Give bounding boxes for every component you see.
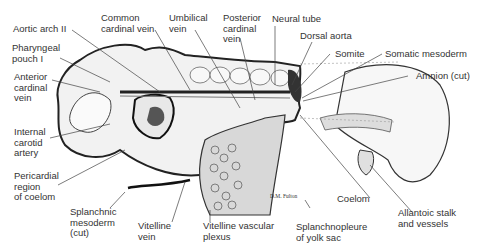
label-allantoic-stalk: Allantoic stalk and vessels: [398, 208, 456, 229]
label-pericardial-region: Pericardial region of coelom: [14, 171, 59, 203]
label-common-cardinal-vein: Common cardinal vein: [101, 13, 154, 34]
label-coelom: Coelom: [337, 194, 370, 205]
splanchnic-mesoderm-cut: [128, 180, 190, 188]
label-internal-carotid-artery: Internal carotid artery: [14, 127, 46, 159]
label-splanchnic-mesoderm: Splanchnic mesoderm (cut): [70, 207, 116, 239]
allantoic-stalk-shape: [358, 150, 374, 175]
label-somatic-mesoderm: Somatic mesoderm: [385, 49, 467, 60]
label-vitelline-vein: Vitelline vein: [138, 221, 171, 242]
label-neural-tube: Neural tube: [272, 14, 321, 25]
label-somite: Somite: [335, 49, 365, 60]
label-posterior-cardinal-vein: Posterior cardinal vein: [223, 13, 261, 45]
label-anterior-cardinal-vein: Anterior cardinal vein: [14, 72, 47, 104]
label-splanchnopleure: Splanchnopleure of yolk sac: [296, 222, 367, 243]
label-pharyngeal-pouch-i: Pharyngeal pouch I: [12, 43, 60, 64]
artist-signature: D.M. Fulton: [270, 193, 297, 199]
label-dorsal-aorta: Dorsal aorta: [300, 31, 352, 42]
label-umbilical-vein: Umbilical vein: [169, 13, 208, 34]
label-aortic-arch-ii: Aortic arch II: [13, 24, 66, 35]
label-amnion-cut: Amnion (cut): [416, 71, 470, 82]
label-vitelline-vascular-plexus: Vitelline vascular plexus: [203, 221, 274, 242]
